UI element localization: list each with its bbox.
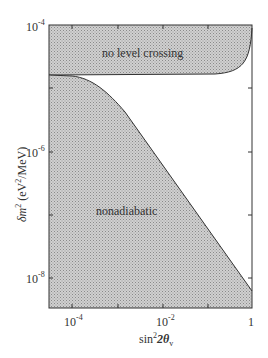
x-tick-label-1e-2: 10-2 — [156, 313, 175, 329]
y-tick-label-1e-4: 10-4 — [26, 18, 45, 34]
x-axis-title: sin22θv — [139, 331, 173, 348]
x-tick-label-1: 1 — [248, 315, 254, 329]
annotation-no-level-crossing: no level crossing — [102, 46, 183, 60]
region-nonadiabatic — [49, 75, 252, 308]
x-tick-label-1e-4: 10-4 — [64, 313, 83, 329]
y-axis-title: δm2 (eV2/MeV) — [14, 147, 29, 222]
chart: 10-4 10-6 10-8 10-4 10-2 1 sin22θv δm2 (… — [0, 0, 268, 358]
y-tick-label-1e-8: 10-8 — [26, 270, 45, 286]
annotation-nonadiabatic: nonadiabatic — [96, 204, 157, 218]
